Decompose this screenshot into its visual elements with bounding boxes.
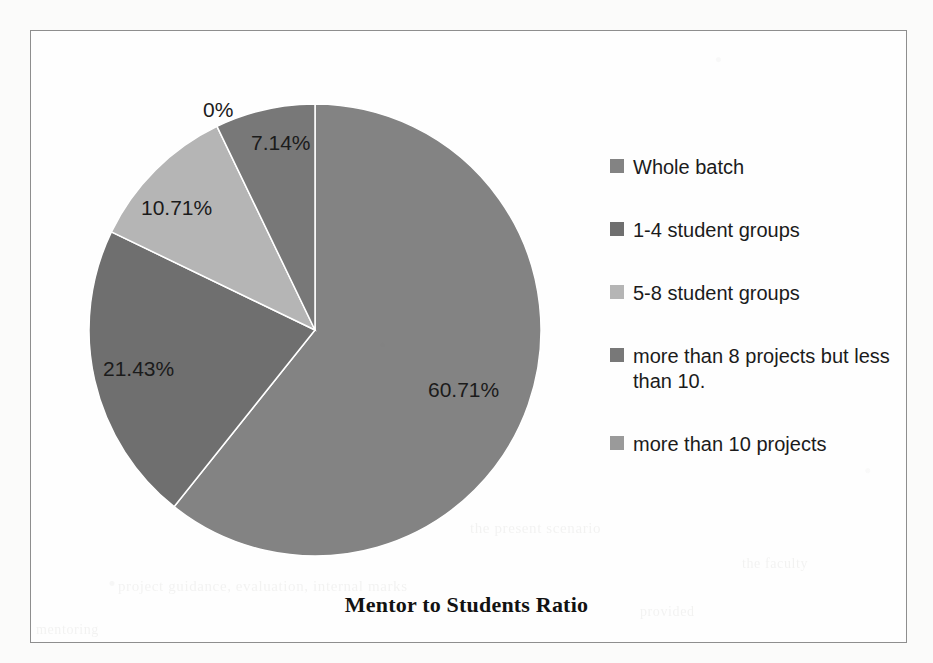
legend-color-swatch-icon [610,348,624,362]
legend-item-label: 5-8 student groups [633,281,800,306]
legend-item[interactable]: more than 10 projects [610,432,890,457]
pie-slice-percent-label: 21.43% [103,357,174,381]
legend-item[interactable]: more than 8 projects but less than 10. [610,344,890,394]
legend-color-swatch-icon [610,285,624,299]
legend-item-label: Whole batch [633,155,744,180]
pie-chart[interactable] [88,103,542,557]
pie-slice-percent-label: 10.71% [141,196,212,220]
chart-legend[interactable]: Whole batch1-4 student groups5-8 student… [610,155,890,457]
legend-item-label: 1-4 student groups [633,218,800,243]
pie-slice-percent-label: 7.14% [251,131,311,155]
pie-slice-percent-label: 0% [203,98,233,122]
legend-color-swatch-icon [610,159,624,173]
scanned-chart-page: the present scenarioproject guidance, ev… [0,0,933,663]
legend-item[interactable]: 5-8 student groups [610,281,890,306]
legend-color-swatch-icon [610,436,624,450]
legend-item-label: more than 10 projects [633,432,826,457]
legend-color-swatch-icon [610,222,624,236]
chart-title: Mentor to Students Ratio [0,592,933,618]
pie-svg [88,103,542,557]
legend-item-label: more than 8 projects but less than 10. [633,344,890,394]
pie-slice-percent-label: 60.71% [428,378,499,402]
legend-item[interactable]: 1-4 student groups [610,218,890,243]
legend-item[interactable]: Whole batch [610,155,890,180]
